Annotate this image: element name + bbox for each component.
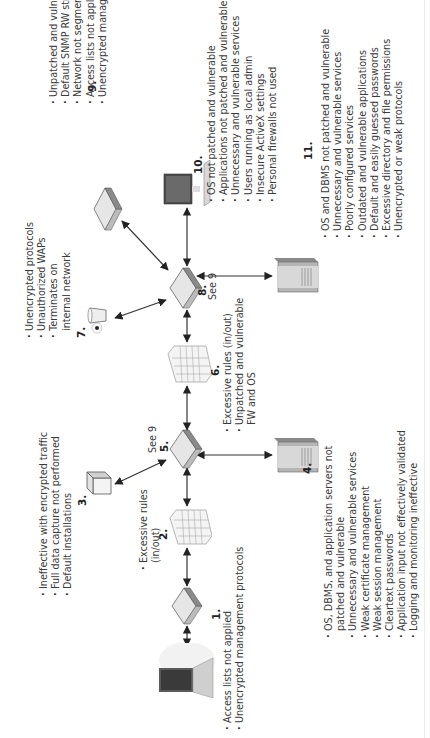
note-item: Default SNMP RW strings [60,0,72,104]
note-item: Unnecessary and vulnerable services [230,0,242,202]
note-item: Unencrypted or weak protocols [393,29,405,238]
node-1-number: 1. [210,609,222,620]
node-10-number: 10. [192,155,204,174]
node-3-number: 3. [76,495,88,506]
network-vulnerability-diagram: 1. 2. 3. 5. See 9 4. [0,0,430,738]
note-item: OS and DBMS not patched and vulnerable [320,29,332,238]
node-6-number: 6. [209,365,221,376]
note-item: Terminates on [48,222,60,338]
notes-wap-7: Unencrypted protocols Unauthorized WAPs … [24,222,73,338]
notes-switch-9: Unpatched and vulnerable services Defaul… [48,0,109,104]
note-item: (in/out) [150,489,162,570]
note-item: Access lists not applied [222,547,234,730]
note-item: Unencrypted protocols [24,222,36,338]
firewall-6-icon [166,342,212,386]
note-item: Excessive rules [138,489,150,570]
note-item: Unpatched and vulnerable [234,298,246,432]
router-1-icon [170,586,206,626]
note-item: patched and vulnerable [335,430,347,638]
note-item: internal network [61,222,73,338]
notes-firewall-2: Excessive rules (in/out) [138,489,162,570]
note-item: Access lists not applied [85,0,97,104]
note-item: Unnecessary and vulnerable services [347,430,359,638]
note-item: Unencrypted management protocols [97,0,109,104]
note-item: OS, DBMS, and application servers not [323,430,335,638]
note-item: Excessive rules (in/out) [222,298,234,432]
note-item: Logging and monitoring ineffective [408,430,420,638]
note-item: Default and easily guessed passwords [369,29,381,238]
page-edge-line [424,0,425,738]
note-item: Outdated and vulnerable applications [357,29,369,238]
note-item: Users running as local admin [243,0,255,202]
node-7-number: 7. [75,327,87,338]
node-5-number: 5. [158,441,170,452]
note-item: Ineffective with encrypted traffic [38,432,50,596]
note-item: Unpatched and vulnerable services [48,0,60,104]
note-item: Weak session management [372,430,384,638]
notes-firewall-6: Excessive rules (in/out) Unpatched and v… [222,298,259,432]
note-item: Default installations [62,432,74,596]
note-item: Insecure ActiveX settings [255,0,267,202]
node-11-number: 11. [302,141,314,160]
laptop-icon [155,643,220,698]
note-item: Network not segmented [72,0,84,104]
note-item: OS not patched and vulnerable [206,0,218,202]
node-5-see-ref: See 9 [147,426,158,453]
node-4-number: 4. [301,463,313,474]
server-11-icon [272,254,320,296]
note-item: Applications not patched and vulnerable [218,0,230,202]
router-5-icon [168,428,206,470]
note-item: Unnecessary and vulnerable services [332,29,344,238]
note-item: Poorly configured services [344,29,356,238]
firewall-2-icon [168,506,212,548]
ids-sensor-3-icon [85,468,115,498]
notes-desktop-10: OS not patched and vulnerable Applicatio… [206,0,279,202]
notes-router-1: Access lists not applied Unencrypted man… [222,547,246,730]
note-item: Full data capture not performed [50,432,62,596]
note-item: FW and OS [246,298,258,432]
notes-server-11: OS and DBMS not patched and vulnerable U… [320,29,405,238]
note-item: Unauthorized WAPs [36,222,48,338]
note-item: Weak certificate management [360,430,372,638]
note-item: Application input not effectively valida… [396,430,408,638]
node-8-see-ref: See 9 [207,273,218,300]
note-item: Excessive directory and file permissions [381,29,393,238]
note-item: Personal firewalls not used [267,0,279,202]
note-item: Cleartext passwords [384,430,396,638]
notes-server-4: OS, DBMS, and application servers not pa… [323,430,421,638]
notes-ids-3: Ineffective with encrypted traffic Full … [38,432,75,596]
note-item: Unencrypted management protocols [234,547,246,730]
switch-9-icon [92,186,126,232]
